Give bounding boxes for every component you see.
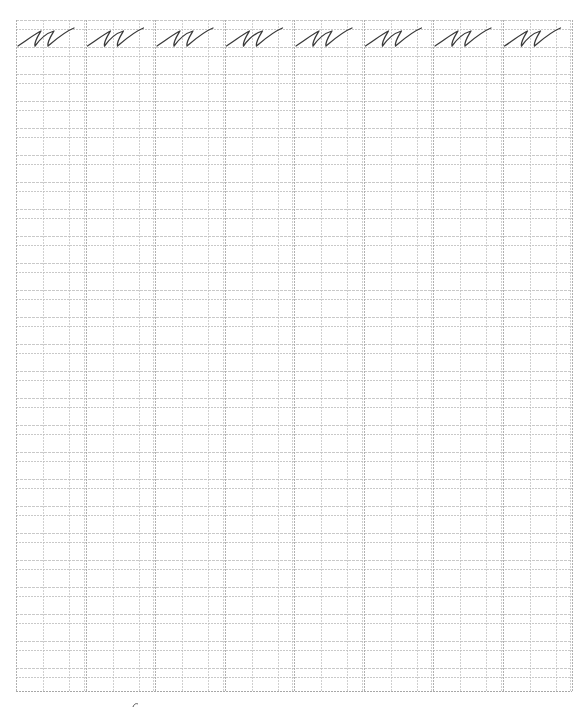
example-letter-sha <box>18 28 74 46</box>
example-letter-sha <box>366 28 422 46</box>
horizontal-guide-lines <box>16 21 572 692</box>
page-number-fragment <box>133 704 138 707</box>
example-letter-sha <box>227 28 283 46</box>
example-letter-sha <box>157 28 213 46</box>
example-letter-sha <box>88 28 144 46</box>
handwriting-practice-sheet: ш <box>0 0 588 708</box>
practice-grid <box>0 0 588 708</box>
example-letters-row <box>18 28 561 46</box>
example-letter-sha <box>296 28 352 46</box>
example-letter-sha <box>435 28 491 46</box>
example-letter-sha <box>505 28 561 46</box>
vertical-column-lines <box>17 20 573 691</box>
